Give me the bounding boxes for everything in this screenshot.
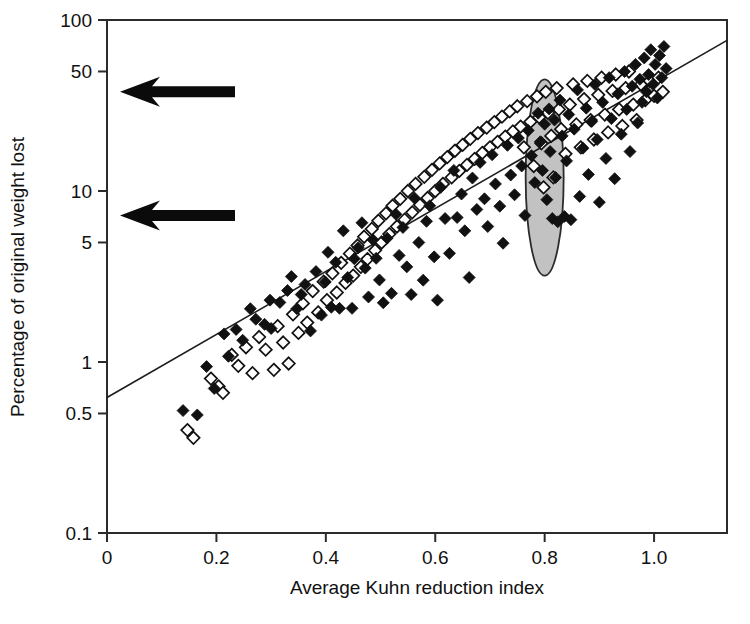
data-point-filled [264, 294, 276, 306]
y-tick-label-5: 5 [81, 232, 92, 253]
y-tick-label-10: 10 [71, 181, 92, 202]
data-point-filled [417, 274, 429, 286]
data-point-filled [363, 291, 375, 303]
x-tick-label-0.2: 0.2 [203, 547, 229, 568]
data-point-filled [373, 274, 385, 286]
y-tick-label-0.5: 0.5 [66, 403, 92, 424]
y-axis-ticks [98, 20, 107, 533]
y-axis-tick-labels: 0.10.5151050100 [60, 10, 92, 544]
data-point-filled [218, 328, 230, 340]
data-point-filled [413, 236, 425, 248]
x-axis-ticks [107, 533, 654, 542]
data-point-filled [574, 190, 586, 202]
data-point-open [253, 331, 265, 343]
data-point-filled [431, 294, 443, 306]
data-point-open [578, 93, 590, 105]
data-point-filled [282, 284, 294, 296]
data-point-filled [600, 152, 612, 164]
x-tick-label-0: 0 [102, 547, 113, 568]
data-point-filled [459, 225, 471, 237]
data-point-filled [624, 146, 636, 158]
x-tick-label-0.6: 0.6 [422, 547, 448, 568]
data-point-filled [334, 302, 346, 314]
data-point-filled [489, 178, 501, 190]
data-point-filled [428, 251, 440, 263]
data-point-filled [609, 173, 621, 185]
data-point-filled [509, 189, 521, 201]
data-point-open [277, 336, 289, 348]
data-point-filled [346, 302, 358, 314]
x-axis-title: Average Kuhn reduction index [290, 577, 545, 598]
data-point-filled [337, 225, 349, 237]
data-point-filled [593, 196, 605, 208]
x-tick-label-1.0: 1.0 [641, 547, 667, 568]
data-point-filled [471, 203, 483, 215]
x-tick-label-0.4: 0.4 [313, 547, 340, 568]
figure-container: 0.10.5151050100 00.20.40.60.81.0 Average… [0, 0, 750, 624]
data-point-filled [482, 221, 494, 233]
data-point-filled [466, 172, 478, 184]
data-point-filled [405, 289, 417, 301]
data-point-filled [505, 169, 517, 181]
data-point-filled [420, 215, 432, 227]
data-point-open [259, 344, 271, 356]
data-point-filled [463, 271, 475, 283]
data-point-filled [497, 237, 509, 249]
y-tick-label-1: 1 [81, 352, 92, 373]
data-point-open [282, 357, 294, 369]
data-point-open [246, 367, 258, 379]
data-point-filled [285, 271, 297, 283]
scatter-plot: 0.10.5151050100 00.20.40.60.81.0 Average… [0, 0, 750, 624]
data-point-filled [393, 249, 405, 261]
data-point-filled [456, 188, 468, 200]
y-tick-label-50: 50 [71, 61, 92, 82]
annotation-arrows [120, 77, 235, 231]
data-point-filled [177, 405, 189, 417]
data-point-filled [439, 213, 451, 225]
arrow-upper-icon [120, 77, 235, 107]
data-point-filled [478, 193, 490, 205]
data-point-open [232, 360, 244, 372]
y-axis-title: Percentage of original weight lost [7, 136, 28, 417]
data-point-open [602, 126, 614, 138]
data-point-open [292, 327, 304, 339]
arrow-lower-icon [120, 200, 235, 230]
y-tick-label-100: 100 [60, 10, 92, 31]
x-tick-label-0.8: 0.8 [531, 547, 557, 568]
data-point-open [326, 267, 338, 279]
y-tick-label-0.1: 0.1 [66, 523, 92, 544]
data-point-filled [494, 200, 506, 212]
data-point-open [331, 286, 343, 298]
data-point-filled [201, 361, 213, 373]
data-point-filled [377, 297, 389, 309]
data-point-filled [322, 246, 334, 258]
data-point-filled [451, 211, 463, 223]
data-point-filled [401, 261, 413, 273]
x-axis-tick-labels: 00.20.40.60.81.0 [102, 547, 668, 568]
data-point-filled [191, 409, 203, 421]
data-point-filled [356, 217, 368, 229]
data-point-filled [582, 168, 594, 180]
data-point-filled [310, 266, 322, 278]
data-point-filled [443, 247, 455, 259]
data-point-filled [274, 296, 286, 308]
data-point-open [268, 364, 280, 376]
data-point-filled [385, 287, 397, 299]
